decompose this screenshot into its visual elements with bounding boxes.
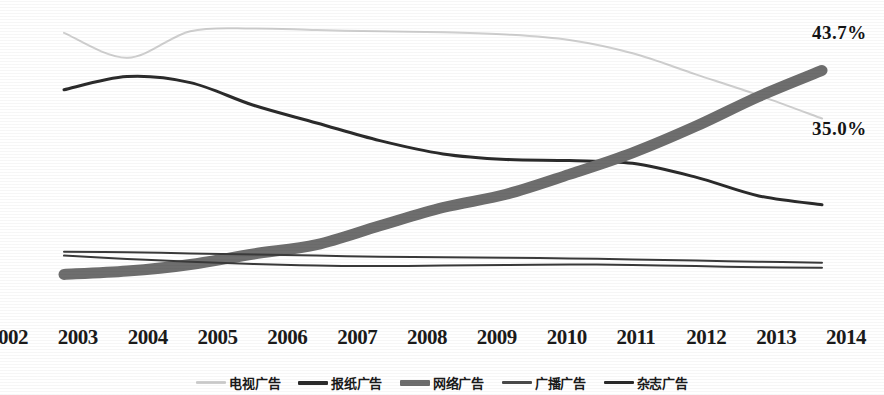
x-tick-2011: 2011 bbox=[617, 325, 656, 350]
x-tick-2006: 2006 bbox=[267, 325, 307, 350]
x-tick-2003: 2003 bbox=[58, 325, 98, 350]
annotation-tv-end-value: 35.0% bbox=[812, 118, 867, 140]
advertising-share-line-chart: 2002200320042005200620072008200920102011… bbox=[0, 0, 884, 395]
chart-plot-area bbox=[0, 0, 884, 330]
legend-label-3: 广播广告 bbox=[535, 373, 586, 392]
x-tick-2013: 2013 bbox=[756, 325, 796, 350]
x-tick-2005: 2005 bbox=[198, 325, 238, 350]
legend-swatch-icon-1 bbox=[298, 381, 328, 385]
legend-label-1: 报纸广告 bbox=[331, 373, 382, 392]
x-tick-2002: 2002 bbox=[0, 325, 28, 350]
x-tick-2008: 2008 bbox=[407, 325, 447, 350]
legend-item-0[interactable]: 电视广告 bbox=[196, 373, 280, 392]
legend-label-4: 杂志广告 bbox=[637, 373, 688, 392]
x-tick-2009: 2009 bbox=[477, 325, 517, 350]
x-tick-2004: 2004 bbox=[128, 325, 168, 350]
legend-swatch-icon-4 bbox=[604, 381, 634, 384]
legend-item-4[interactable]: 杂志广告 bbox=[604, 373, 688, 392]
series-line-0 bbox=[64, 28, 822, 118]
x-axis-tick-labels: 2002200320042005200620072008200920102011… bbox=[0, 325, 884, 355]
legend-label-0: 电视广告 bbox=[229, 373, 280, 392]
x-tick-2012: 2012 bbox=[686, 325, 726, 350]
series-line-2 bbox=[64, 70, 822, 274]
legend-swatch-icon-2 bbox=[400, 380, 430, 386]
series-layer bbox=[64, 28, 822, 274]
legend-item-1[interactable]: 报纸广告 bbox=[298, 373, 382, 392]
legend-swatch-icon-3 bbox=[502, 381, 532, 384]
x-tick-2014: 2014 bbox=[826, 325, 866, 350]
chart-legend: 电视广告报纸广告网络广告广播广告杂志广告 bbox=[0, 370, 884, 395]
x-tick-2007: 2007 bbox=[337, 325, 377, 350]
legend-swatch-icon-0 bbox=[196, 381, 226, 384]
x-tick-2010: 2010 bbox=[547, 325, 587, 350]
series-line-1 bbox=[64, 76, 822, 205]
legend-item-2[interactable]: 网络广告 bbox=[400, 373, 484, 392]
annotation-internet-end-value: 43.7% bbox=[812, 22, 867, 44]
legend-item-3[interactable]: 广播广告 bbox=[502, 373, 586, 392]
legend-label-2: 网络广告 bbox=[433, 373, 484, 392]
